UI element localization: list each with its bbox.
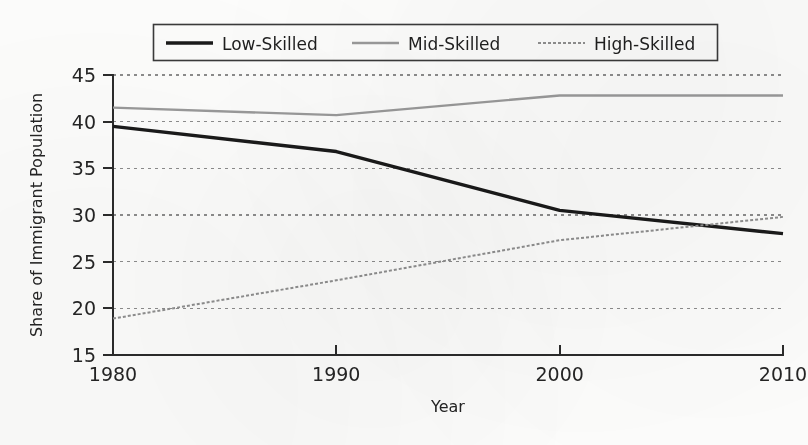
x-tick-label-1990: 1990 [312, 363, 360, 385]
x-tick-label-2010: 2010 [759, 363, 807, 385]
chart-figure: 45 40 35 30 25 20 15 1980 1990 2000 2010… [0, 0, 808, 445]
y-axis-ticks [103, 75, 113, 355]
x-tick-label-1980: 1980 [89, 363, 137, 385]
series-line-low-skilled [113, 126, 783, 233]
y-tick-label-45: 45 [72, 64, 96, 86]
y-tick-labels: 45 40 35 30 25 20 15 [72, 64, 96, 366]
series-line-high-skilled [113, 217, 783, 319]
y-tick-label-20: 20 [72, 297, 96, 319]
series-line-mid-skilled [113, 96, 783, 116]
y-tick-label-35: 35 [72, 157, 96, 179]
legend: Low-Skilled Mid-Skilled High-Skilled [154, 25, 718, 61]
y-tick-label-25: 25 [72, 251, 96, 273]
y-tick-label-30: 30 [72, 204, 96, 226]
line-chart-plot: 45 40 35 30 25 20 15 1980 1990 2000 2010… [0, 0, 808, 445]
x-tick-label-2000: 2000 [536, 363, 584, 385]
legend-label-low-skilled: Low-Skilled [222, 34, 318, 54]
y-axis-title: Share of Immigrant Population [27, 93, 46, 337]
x-axis-title: Year [430, 397, 465, 416]
x-tick-labels: 1980 1990 2000 2010 [89, 363, 807, 385]
y-tick-label-40: 40 [72, 111, 96, 133]
legend-label-mid-skilled: Mid-Skilled [408, 34, 500, 54]
data-series-layer [113, 96, 783, 319]
legend-label-high-skilled: High-Skilled [594, 34, 695, 54]
